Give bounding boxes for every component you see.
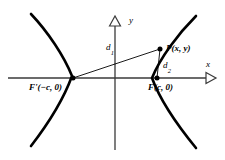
- diagram-canvas: [0, 0, 225, 160]
- x-axis-label: x: [206, 60, 210, 69]
- point-p-dot: [158, 47, 163, 52]
- distance-d2-base: d: [163, 60, 168, 70]
- hyperbola-diagram: y x F'(−c, 0) F(c, 0) P(x, y) d1 d2: [0, 0, 225, 160]
- distance-d2-label: d2: [163, 61, 171, 72]
- hyperbola-left-branch: [31, 14, 72, 146]
- point-p-label: P(x, y): [166, 44, 191, 53]
- distance-segment-d1: [73, 49, 160, 78]
- distance-d1-base: d: [106, 42, 111, 52]
- left-focus-label: F'(−c, 0): [29, 83, 62, 92]
- distance-d1-label: d1: [106, 43, 114, 54]
- x-axis-arrowhead-icon: [206, 73, 216, 84]
- y-axis-label: y: [129, 16, 133, 25]
- distance-d2-subscript: 2: [168, 67, 171, 74]
- right-focus-dot: [155, 76, 160, 81]
- right-focus-label: F(c, 0): [148, 83, 173, 92]
- y-axis-arrowhead-icon: [110, 16, 121, 26]
- distance-d1-subscript: 1: [111, 49, 114, 56]
- left-focus-dot: [71, 76, 76, 81]
